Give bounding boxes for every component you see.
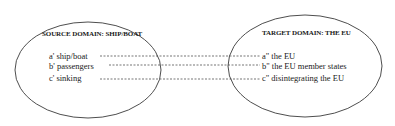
target-domain-title: TARGET DOMAIN: THE EU: [262, 29, 351, 37]
source-item-c: c' sinking: [49, 73, 81, 83]
source-item-a: a' ship/boat: [49, 51, 88, 61]
target-item-b: b" the EU member states: [262, 61, 347, 71]
target-item-c: c" disintegrating the EU: [262, 73, 344, 83]
source-domain-title: SOURCE DOMAIN: SHIP/BOAT: [42, 30, 142, 38]
source-item-b: b' passengers: [49, 61, 94, 71]
target-item-a: a" the EU: [262, 51, 295, 61]
